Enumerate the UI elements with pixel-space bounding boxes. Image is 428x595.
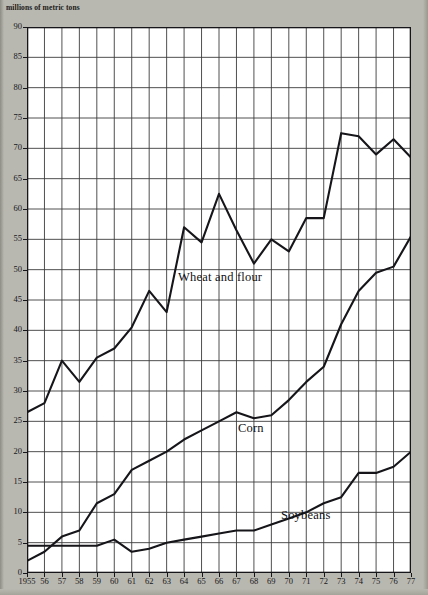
series-label-soybeans: Soybeans [281, 508, 331, 523]
x-axis-tick-label: 73 [332, 576, 350, 586]
x-axis-tick-mark [236, 573, 237, 577]
x-axis-tick-label: 77 [402, 576, 420, 586]
x-axis-tick-mark [79, 573, 80, 577]
x-axis-tick-label: 72 [315, 576, 333, 586]
y-axis-tick-label: 20 [0, 446, 22, 456]
x-axis-tick-mark [202, 573, 203, 577]
x-axis-tick-mark [27, 573, 28, 577]
y-axis-tick-label: 25 [0, 415, 22, 425]
x-axis-tick-mark [97, 573, 98, 577]
x-axis-tick-label: 68 [245, 576, 263, 586]
y-axis-tick-label: 60 [0, 203, 22, 213]
x-axis-tick-mark [184, 573, 185, 577]
y-axis-tick-label: 90 [0, 21, 22, 31]
x-axis-tick-mark [376, 573, 377, 577]
chart-axis-unit-title: millions of metric tons [6, 3, 80, 12]
y-axis-tick-label: 65 [0, 173, 22, 183]
page-edge-shadow-right [423, 0, 428, 595]
x-axis-tick-mark [289, 573, 290, 577]
y-axis-tick-label: 10 [0, 506, 22, 516]
x-axis-tick-mark [132, 573, 133, 577]
y-axis-tick-label: 40 [0, 324, 22, 334]
x-axis-tick-label: 58 [70, 576, 88, 586]
x-axis-tick-label: 62 [140, 576, 158, 586]
x-axis-tick-label: 71 [297, 576, 315, 586]
x-axis-tick-mark [44, 573, 45, 577]
x-axis-tick-mark [114, 573, 115, 577]
y-axis-tick-label: 45 [0, 294, 22, 304]
x-axis-tick-label: 64 [175, 576, 193, 586]
x-axis-tick-label: 76 [385, 576, 403, 586]
x-axis-tick-mark [411, 573, 412, 577]
x-axis-tick-mark [394, 573, 395, 577]
x-axis-tick-label: 60 [105, 576, 123, 586]
y-axis-tick-label: 70 [0, 142, 22, 152]
x-axis-tick-label: 63 [158, 576, 176, 586]
plot-area [27, 27, 411, 573]
chart-page: millions of metric tons 0510152025303540… [0, 0, 428, 595]
x-axis-tick-label: 57 [53, 576, 71, 586]
y-axis-tick-label: 75 [0, 112, 22, 122]
x-axis-tick-label: 65 [193, 576, 211, 586]
x-axis-tick-label: 67 [227, 576, 245, 586]
page-edge-shadow-bottom [0, 589, 428, 595]
y-axis-tick-label: 35 [0, 355, 22, 365]
x-axis-tick-mark [167, 573, 168, 577]
x-axis-tick-mark [359, 573, 360, 577]
x-axis-tick-label: 61 [123, 576, 141, 586]
x-axis-tick-label: 69 [262, 576, 280, 586]
x-axis-tick-mark [219, 573, 220, 577]
y-axis-tick-label: 80 [0, 82, 22, 92]
y-axis-tick-label: 50 [0, 264, 22, 274]
series-label-wheat: Wheat and flour [178, 270, 262, 285]
y-axis-tick-label: 30 [0, 385, 22, 395]
x-axis-tick-mark [149, 573, 150, 577]
line-chart-svg [27, 27, 411, 573]
series-label-corn: Corn [238, 421, 264, 436]
x-axis-tick-mark [306, 573, 307, 577]
y-axis-tick-label: 5 [0, 537, 22, 547]
y-axis-tick-label: 55 [0, 233, 22, 243]
y-axis-tick-label: 85 [0, 51, 22, 61]
x-axis-tick-label: 56 [35, 576, 53, 586]
x-axis-tick-mark [254, 573, 255, 577]
x-axis-tick-label: 74 [350, 576, 368, 586]
y-axis-tick-label: 15 [0, 476, 22, 486]
x-axis-tick-mark [62, 573, 63, 577]
x-axis-tick-mark [341, 573, 342, 577]
x-axis-tick-mark [324, 573, 325, 577]
x-axis-tick-label: 75 [367, 576, 385, 586]
x-axis-tick-label: 59 [88, 576, 106, 586]
x-axis-tick-mark [271, 573, 272, 577]
x-axis-tick-label: 66 [210, 576, 228, 586]
x-axis-tick-label: 70 [280, 576, 298, 586]
